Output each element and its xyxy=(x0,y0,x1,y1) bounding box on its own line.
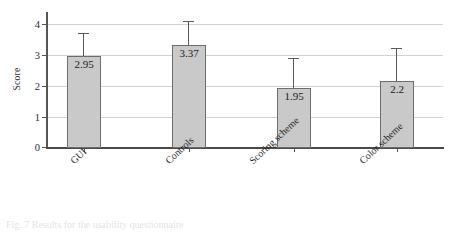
y-tick-mark-0 xyxy=(42,147,46,148)
error-bar-stem-color-scheme xyxy=(396,48,397,82)
y-tick-label-2: 2 xyxy=(35,81,40,92)
figure-bar-chart: 4 3 2 1 0 Score 2.95 GUI 3.37 Controls 1… xyxy=(0,0,460,232)
error-bar-cap-color-scheme xyxy=(391,48,402,49)
bar-value-controls: 3.37 xyxy=(173,47,205,59)
bar-value-color-scheme: 2.2 xyxy=(381,83,413,95)
error-bar-cap-gui xyxy=(78,33,89,34)
bar-value-gui: 2.95 xyxy=(68,58,100,70)
y-tick-label-3: 3 xyxy=(35,50,40,61)
y-axis-line xyxy=(46,12,48,149)
y-tick-mark-1 xyxy=(42,117,46,118)
y-tick-label-0: 0 xyxy=(35,142,40,153)
y-tick-label-4: 4 xyxy=(35,19,40,30)
bar-value-scoring-scheme: 1.95 xyxy=(278,90,310,102)
error-bar-stem-scoring-scheme xyxy=(293,58,294,89)
gridline-4 xyxy=(46,24,443,25)
gridline-3 xyxy=(46,55,443,56)
x-tick-mark-scoring-scheme xyxy=(294,148,295,152)
x-tick-mark-color-scheme xyxy=(397,148,398,152)
bar-controls: 3.37 xyxy=(172,45,206,148)
error-bar-stem-gui xyxy=(83,33,84,57)
y-tick-mark-3 xyxy=(42,55,46,56)
y-tick-label-1: 1 xyxy=(35,112,40,123)
y-tick-mark-4 xyxy=(42,24,46,25)
error-bar-cap-controls xyxy=(183,21,194,22)
figure-caption: Fig. 7 Results for the usability questio… xyxy=(6,219,306,232)
error-bar-stem-controls xyxy=(188,21,189,46)
bar-gui: 2.95 xyxy=(67,56,101,148)
y-axis-tick-labels: 4 3 2 1 0 xyxy=(22,0,40,232)
y-axis-title: Score xyxy=(12,49,22,109)
error-bar-cap-scoring-scheme xyxy=(288,58,299,59)
x-tick-label-gui: GUI xyxy=(68,146,89,166)
y-tick-mark-2 xyxy=(42,86,46,87)
